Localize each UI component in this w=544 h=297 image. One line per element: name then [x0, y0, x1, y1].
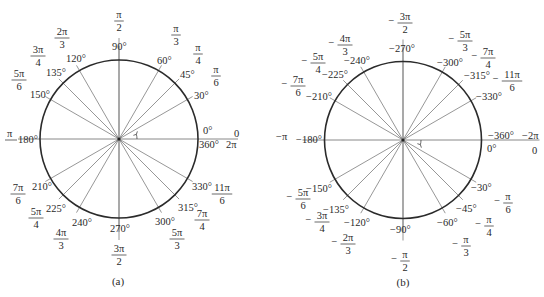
radian-label: 4π3 — [54, 227, 69, 251]
degree-label: 210° — [32, 181, 52, 192]
degree-label: −60° — [437, 217, 458, 228]
radian-label: −π4 — [475, 214, 494, 238]
angle-diagram: 0°360°30°45°60°90°120°135°150°180°210°22… — [0, 0, 544, 297]
svg-text:2π: 2π — [57, 26, 68, 37]
radian-label: −π3 — [452, 234, 471, 258]
svg-text:2: 2 — [402, 262, 407, 273]
svg-text:6: 6 — [219, 195, 224, 206]
radian-label: π6 — [211, 64, 221, 88]
radian-label: −7π4 — [472, 46, 496, 70]
svg-text:4π: 4π — [56, 227, 67, 238]
radian-label: −2π — [522, 130, 539, 141]
svg-text:4: 4 — [199, 221, 205, 232]
radian-label: −4π3 — [329, 33, 353, 57]
degree-label: 360° — [199, 139, 219, 150]
svg-text:3: 3 — [174, 240, 179, 251]
minus-sign: − — [452, 238, 458, 249]
angle-ray — [119, 97, 193, 140]
degree-label: −270° — [389, 43, 415, 54]
degree-label: 300° — [155, 216, 175, 227]
degree-label: 240° — [72, 217, 92, 228]
svg-text:4: 4 — [485, 59, 491, 70]
angle-ray — [119, 139, 162, 213]
degree-label: −300° — [437, 57, 463, 68]
svg-text:4: 4 — [315, 64, 321, 75]
svg-text:6: 6 — [509, 82, 514, 93]
radian-label: 0 — [532, 145, 537, 156]
origin-point — [401, 138, 404, 141]
svg-text:3π: 3π — [400, 11, 411, 22]
radian-label: 2π3 — [55, 26, 70, 50]
radian-label: 11π6 — [212, 182, 233, 206]
degree-label: 60° — [157, 55, 172, 66]
degree-label: 330° — [192, 181, 212, 192]
degree-label: −330° — [476, 91, 502, 102]
radian-label: −3π4 — [306, 210, 330, 234]
degree-label: 0° — [487, 143, 496, 154]
degree-label: −315° — [464, 70, 490, 81]
angle-ray — [45, 139, 119, 182]
minus-sign: − — [475, 218, 481, 229]
direction-arrow-icon — [420, 140, 421, 145]
svg-text:6: 6 — [295, 87, 300, 98]
degree-label: 180° — [18, 134, 38, 145]
minus-sign: − — [493, 73, 499, 84]
radian-label: −11π6 — [493, 69, 523, 93]
angle-ray — [119, 65, 162, 139]
minus-sign: − — [287, 191, 293, 202]
svg-text:π: π — [463, 234, 469, 245]
svg-text:4: 4 — [35, 57, 41, 68]
svg-text:3: 3 — [462, 42, 467, 53]
degree-label: 225° — [46, 203, 66, 214]
angle-ray — [403, 140, 463, 200]
minus-sign: − — [391, 253, 397, 264]
svg-text:π: π — [116, 9, 122, 20]
degree-label: −225° — [322, 69, 348, 80]
angle-ray — [119, 79, 179, 139]
svg-text:4: 4 — [319, 223, 325, 234]
svg-text:2: 2 — [402, 24, 407, 35]
svg-text:11π: 11π — [504, 69, 520, 80]
angle-ray — [119, 139, 193, 182]
degree-label: −360° — [488, 130, 514, 141]
degree-label: 30° — [194, 90, 209, 101]
svg-text:6: 6 — [300, 200, 305, 211]
minus-sign: − — [332, 236, 338, 247]
svg-text:6: 6 — [15, 195, 20, 206]
degree-label: −210° — [306, 91, 332, 102]
svg-text:3π: 3π — [317, 210, 328, 221]
svg-text:6: 6 — [505, 204, 510, 215]
radian-label: π3 — [171, 23, 181, 47]
radian-label: −5π3 — [449, 29, 473, 53]
radian-label: −3π2 — [389, 11, 413, 35]
svg-text:6: 6 — [16, 81, 21, 92]
degree-label: 0° — [203, 125, 212, 136]
minus-sign: − — [282, 78, 288, 89]
degree-label: 135° — [46, 67, 66, 78]
angle-ray — [403, 80, 463, 140]
svg-text:4: 4 — [33, 219, 39, 230]
svg-text:7π: 7π — [483, 46, 494, 57]
angle-ray — [330, 140, 403, 182]
svg-text:π: π — [486, 214, 492, 225]
radian-label: −π6 — [494, 191, 513, 215]
svg-text:3π: 3π — [33, 44, 44, 55]
radian-label: 2π — [226, 139, 237, 150]
angle-ray — [77, 65, 120, 139]
radian-label: 5π4 — [29, 206, 44, 230]
angle-ray — [403, 67, 445, 140]
svg-text:7π: 7π — [197, 208, 208, 219]
svg-text:3: 3 — [342, 46, 347, 57]
minus-sign: − — [306, 214, 312, 225]
radian-label: π4 — [193, 42, 203, 66]
radian-label: 0 — [234, 128, 239, 139]
radian-label: −7π6 — [282, 74, 306, 98]
angle-ray — [45, 97, 119, 140]
radian-label: 3π2 — [112, 243, 127, 267]
svg-text:7π: 7π — [13, 182, 24, 193]
svg-text:3π: 3π — [114, 243, 125, 254]
svg-text:4π: 4π — [340, 33, 351, 44]
angle-ray — [343, 80, 403, 140]
minus-sign: − — [472, 50, 478, 61]
svg-text:π: π — [213, 64, 219, 75]
